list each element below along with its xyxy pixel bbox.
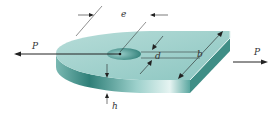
label-thickness: h <box>112 102 118 111</box>
label-load-right: P <box>254 48 260 57</box>
label-width: b <box>197 50 203 59</box>
load-arrow-right <box>233 60 268 65</box>
label-load-left: P <box>32 42 38 51</box>
label-edge-distance: e <box>121 10 126 19</box>
bar-diagram <box>0 0 280 116</box>
label-hole-diameter: d <box>155 52 161 61</box>
